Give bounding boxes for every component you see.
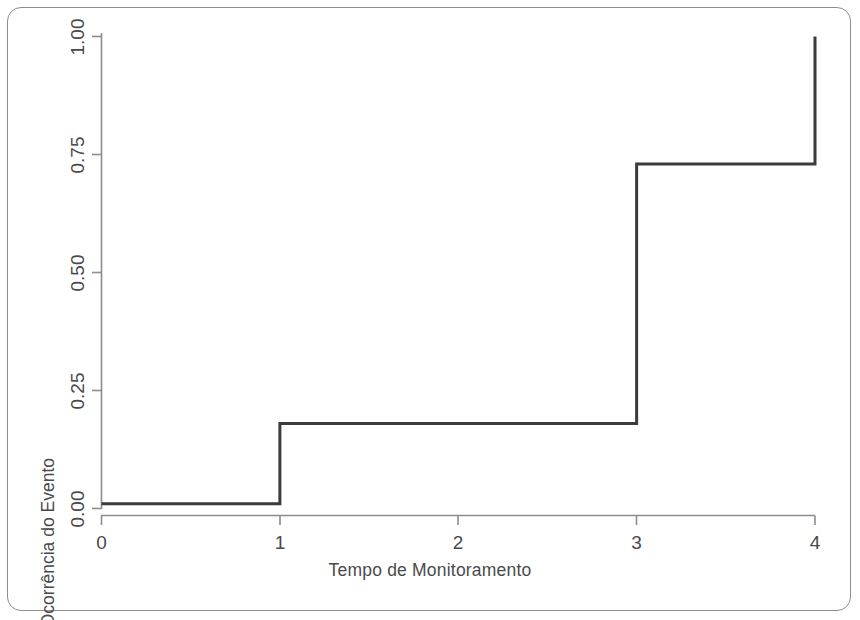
- y-tick-label-4: 1.00: [55, 26, 101, 48]
- x-tick-label-2: 2: [453, 532, 464, 554]
- step-chart-plot: [0, 0, 860, 620]
- y-tick-label-3-text: 0.75: [67, 137, 89, 174]
- y-tick-label-2-text: 0.50: [67, 255, 89, 292]
- y-axis-title: Probabilidade de Ocorrência do Evento: [38, 458, 59, 620]
- x-axis-ticks: [102, 516, 816, 526]
- y-tick-label-1: 0.25: [55, 380, 101, 402]
- figure-container: 0 1 2 3 4 0.00 0.25 0.50 0.75 1.00 Proba…: [0, 0, 860, 620]
- y-tick-label-4-text: 1.00: [67, 19, 89, 56]
- y-tick-label-3: 0.75: [55, 144, 101, 166]
- x-tick-label-0: 0: [96, 532, 107, 554]
- step-curve-line: [102, 37, 816, 504]
- x-tick-label-3: 3: [631, 532, 642, 554]
- y-tick-label-0: 0.00: [55, 498, 101, 520]
- y-tick-label-2: 0.50: [55, 262, 101, 284]
- x-tick-label-4: 4: [810, 532, 821, 554]
- x-axis-title: Tempo de Monitoramento: [60, 560, 800, 581]
- y-tick-label-0-text: 0.00: [67, 491, 89, 528]
- y-tick-label-1-text: 0.25: [67, 373, 89, 410]
- x-tick-label-1: 1: [275, 532, 286, 554]
